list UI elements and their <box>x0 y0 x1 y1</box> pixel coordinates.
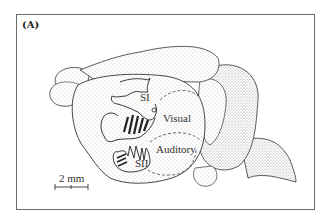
region-label-si: SI <box>140 92 150 103</box>
pons-shape <box>193 166 216 186</box>
region-label-sii: SII <box>135 158 148 169</box>
region-label-auditory: Auditory <box>156 144 196 155</box>
scale-bar <box>55 184 88 190</box>
brain-illustration <box>0 0 325 219</box>
panel-label: (A) <box>22 19 39 30</box>
region-label-visual: Visual <box>163 113 191 124</box>
scale-bar-label: 2 mm <box>59 172 84 184</box>
